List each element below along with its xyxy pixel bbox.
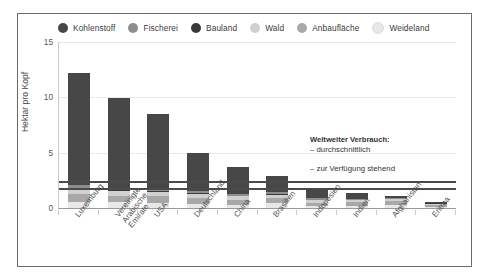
reference-annotation: Weltweiter Verbrauch: – durchschnittlich…: [310, 135, 470, 174]
x-axis-tick: [455, 210, 456, 215]
legend-swatch-icon: [250, 23, 260, 33]
x-axis-tick: [58, 210, 59, 215]
x-axis-tick: [415, 210, 416, 215]
x-axis-tick: [137, 210, 138, 215]
legend-swatch-icon: [128, 23, 138, 33]
x-axis-tick: [257, 210, 258, 215]
bar-2[interactable]: [147, 114, 169, 208]
legend-label: Anbaufläche: [312, 23, 359, 33]
bar-segment-kohlenstoff: [187, 153, 209, 191]
legend-swatch-icon: [58, 23, 68, 33]
chart-legend: KohlenstoffFischereiBaulandWaldAnbaufläc…: [18, 14, 473, 42]
legend-item-fischerei[interactable]: Fischerei: [128, 23, 178, 33]
reference-line-available: [59, 188, 456, 190]
annotation-title: Weltweiter Verbrauch:: [310, 135, 470, 145]
legend-label: Fischerei: [143, 23, 178, 33]
bar-1[interactable]: [108, 98, 130, 208]
bar-segment-kohlenstoff: [147, 114, 169, 188]
y-axis-tick-label: 15: [44, 37, 53, 47]
legend-label: Kohlenstoff: [73, 23, 115, 33]
y-axis: Hektar pro Kopf 051015: [18, 42, 58, 209]
x-axis-tick: [336, 210, 337, 215]
x-axis: LuxemburgVereinigte Arabische EmirateUSA…: [58, 210, 456, 268]
x-axis-tick: [376, 210, 377, 215]
legend-item-wald[interactable]: Wald: [250, 23, 284, 33]
legend-swatch-icon: [372, 22, 384, 34]
legend-label: Weideland: [389, 23, 429, 33]
legend-item-anbaufläche[interactable]: Anbaufläche: [297, 23, 359, 33]
bar-segment-kohlenstoff: [108, 98, 130, 187]
annotation-line-average: – durchschnittlich: [310, 145, 470, 155]
y-axis-tick-label: 10: [44, 92, 53, 102]
legend-swatch-icon: [191, 23, 201, 33]
x-axis-tick: [296, 210, 297, 215]
x-axis-tick: [217, 210, 218, 215]
x-axis-tick: [177, 210, 178, 215]
chart-figure: KohlenstoffFischereiBaulandWaldAnbaufläc…: [17, 13, 472, 267]
bar-segment-kohlenstoff: [68, 73, 90, 185]
legend-label: Bauland: [206, 23, 237, 33]
y-axis-tick-label: 0: [48, 203, 53, 213]
legend-swatch-icon: [297, 23, 307, 33]
legend-item-bauland[interactable]: Bauland: [191, 23, 237, 33]
legend-label: Wald: [265, 23, 284, 33]
reference-line-average: [59, 181, 456, 183]
gridline: [59, 42, 456, 43]
x-axis-tick: [98, 210, 99, 215]
legend-item-weideland[interactable]: Weideland: [372, 22, 429, 34]
annotation-line-available: – zur Verfügung stehend: [310, 164, 470, 174]
y-axis-title: Hektar pro Kopf: [20, 37, 30, 167]
legend-item-kohlenstoff[interactable]: Kohlenstoff: [58, 23, 115, 33]
plot-area: [58, 42, 456, 209]
y-axis-tick-label: 5: [48, 148, 53, 158]
